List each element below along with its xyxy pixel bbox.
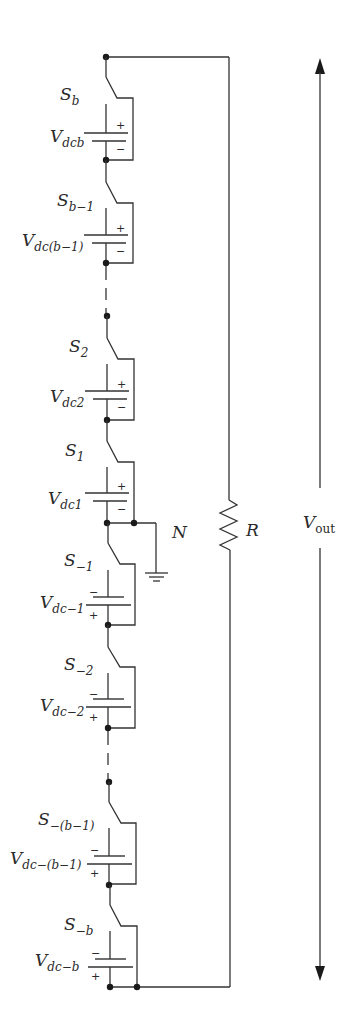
source-label-vdc1: Vdc1 <box>48 488 82 512</box>
circuit-diagram: + − Sb Vdcb + − Sb−1 Vdc(b−1) + − S2 <box>0 0 357 1025</box>
polarity-bottom: − <box>117 503 126 516</box>
polarity-bottom: + <box>91 970 100 983</box>
switch-label-s-1: S−1 <box>64 550 93 574</box>
switch-s-1 <box>108 543 135 625</box>
cell-s-1: − + S−1 Vdc−1 <box>40 523 135 628</box>
polarity-top: + <box>116 119 125 132</box>
arrow-up-icon <box>315 58 325 74</box>
source-label-vdc-b-1: Vdc(b−1) <box>22 230 84 254</box>
switch-s-b-1 <box>109 802 136 884</box>
cell-s-b-1: − + S−(b−1) Vdc−(b−1) <box>10 779 136 888</box>
source-label-vdcb: Vdcb <box>50 126 84 150</box>
source-label-vdc2: Vdc2 <box>50 386 84 410</box>
polarity-top: + <box>116 222 125 235</box>
polarity-bottom: − <box>116 143 125 156</box>
polarity-bottom: + <box>90 867 99 880</box>
polarity-bottom: + <box>89 711 98 724</box>
cell-s1: + − S1 Vdc1 <box>48 420 134 523</box>
source-label-vdc-b-neg: Vdc−b <box>35 950 79 974</box>
switch-label-s-b: S−b <box>64 914 93 938</box>
source-label-vdc-2: Vdc−2 <box>40 695 84 719</box>
switch-label-s2: S2 <box>69 336 88 360</box>
resistor-icon <box>220 500 237 550</box>
polarity-bottom: − <box>116 245 125 258</box>
cell-s-2: − + S−2 Vdc−2 <box>40 625 135 731</box>
source-label-vdc-b-1-neg: Vdc−(b−1) <box>10 848 82 872</box>
vout-arrow: Vout <box>303 58 335 981</box>
polarity-top: − <box>89 586 98 599</box>
source-label-vdc-1: Vdc−1 <box>40 592 84 616</box>
polarity-top: − <box>91 947 100 960</box>
resistor-label: R <box>245 520 259 540</box>
neutral-node: N <box>104 520 188 581</box>
vout-label: Vout <box>303 512 335 536</box>
load-resistor: R <box>220 500 259 550</box>
switch-label-s-2: S−2 <box>64 654 93 678</box>
polarity-top: − <box>90 844 99 857</box>
switch-label-s1: S1 <box>65 440 84 464</box>
switch-label-sb: Sb <box>60 84 79 108</box>
cell-s-b: − + S−b Vdc−b <box>35 885 137 987</box>
polarity-bottom: + <box>89 609 98 622</box>
arrow-down-icon <box>315 966 325 981</box>
neutral-label: N <box>171 522 188 542</box>
switch-label-sb-1: Sb−1 <box>57 190 94 214</box>
switch-s-b <box>110 905 137 987</box>
polarity-top: − <box>89 688 98 701</box>
cell-sb: + − Sb Vdcb <box>50 54 133 163</box>
cell-sb-1: + − Sb−1 Vdc(b−1) <box>22 160 133 266</box>
polarity-top: + <box>117 480 126 493</box>
bottom-rail <box>107 550 230 990</box>
polarity-top: + <box>117 378 126 391</box>
polarity-bottom: − <box>117 401 126 414</box>
cell-s2: + − S2 Vdc2 <box>50 313 134 423</box>
switch-label-s-b-1: S−(b−1) <box>38 809 95 833</box>
switch-s-2 <box>108 647 135 728</box>
